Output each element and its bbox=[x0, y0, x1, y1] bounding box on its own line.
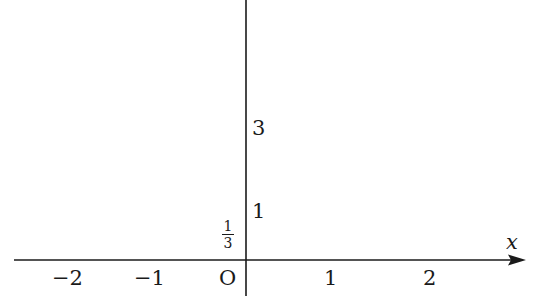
x-tick-1: 1 bbox=[324, 268, 337, 289]
x-axis-label: x bbox=[506, 232, 518, 253]
y-tick-3: 3 bbox=[252, 118, 265, 139]
coordinate-diagram: x −2 −1 O 1 2 3 1 1 3 bbox=[0, 0, 537, 296]
origin-label: O bbox=[219, 268, 236, 289]
axes bbox=[0, 0, 537, 296]
y-tick-1: 1 bbox=[252, 201, 265, 222]
x-tick-neg2: −2 bbox=[52, 268, 83, 289]
fraction-numerator: 1 bbox=[224, 218, 233, 234]
fraction-denominator: 3 bbox=[224, 235, 233, 251]
x-tick-2: 2 bbox=[423, 268, 436, 289]
x-tick-neg1: −1 bbox=[134, 268, 165, 289]
y-tick-one-third: 1 3 bbox=[222, 219, 234, 250]
